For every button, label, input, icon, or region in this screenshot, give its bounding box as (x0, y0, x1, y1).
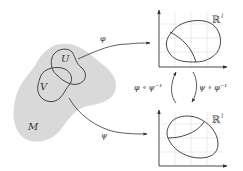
open-set-v-label: V (40, 82, 47, 92)
manifold-chart-diagram: M U V φ ψ φ ∘ ψ⁻¹ ψ ∘ φ⁻¹ ℝl ℝl (0, 0, 243, 171)
manifold-label: M (28, 122, 38, 132)
space-symbol: ℝ (212, 114, 220, 125)
space-symbol: ℝ (212, 14, 220, 25)
open-set-u-label: U (61, 54, 69, 64)
dimension-superscript: l (221, 112, 223, 119)
transition-down-arrow (192, 72, 197, 102)
phi-label: φ (100, 35, 106, 43)
dimension-superscript: l (221, 12, 223, 19)
bottom-space-label: ℝl (212, 113, 223, 125)
top-space-label: ℝl (212, 13, 223, 25)
transition-up-label: φ ∘ ψ⁻¹ (134, 84, 162, 92)
transition-down-label: ψ ∘ φ⁻¹ (199, 84, 227, 92)
transition-up-arrow (172, 72, 177, 103)
psi-label: ψ (101, 132, 107, 140)
